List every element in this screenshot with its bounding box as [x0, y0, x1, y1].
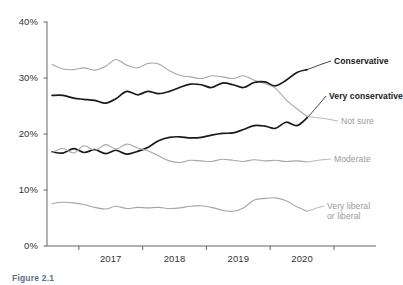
y-axis-label: 40% — [4, 16, 38, 27]
series-leader-0 — [307, 117, 338, 121]
figure-caption: Figure 2.1 — [12, 273, 54, 283]
series-label-3: Moderate — [334, 155, 371, 165]
series-leader-2 — [307, 96, 326, 118]
series-label-4: Very liberal or liberal — [327, 202, 370, 221]
series-leader-3 — [307, 159, 331, 162]
series-leader-4 — [307, 206, 324, 211]
y-axis-label: 10% — [4, 184, 38, 195]
x-axis-label: 2018 — [145, 253, 205, 264]
y-axis-label: 30% — [4, 72, 38, 83]
x-axis-label: 2020 — [272, 253, 332, 264]
series-label-0: Not sure — [341, 117, 374, 127]
series-line-3 — [52, 144, 307, 162]
series-label-1: Conservative — [334, 57, 389, 67]
series-label-2: Very conservative — [329, 92, 403, 102]
x-axis-label: 2017 — [81, 253, 141, 264]
y-axis-label: 20% — [4, 128, 38, 139]
series-leader-1 — [307, 61, 331, 70]
x-axis-label: 2019 — [208, 253, 268, 264]
y-axis-label: 0% — [4, 240, 38, 251]
series-line-4 — [52, 198, 307, 212]
